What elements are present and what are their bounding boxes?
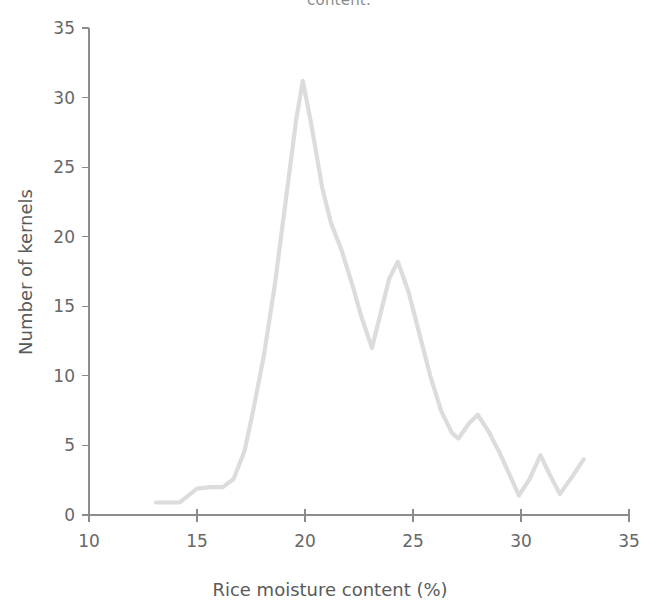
chart-axes xyxy=(89,28,629,515)
x-tick-label: 30 xyxy=(510,531,532,551)
y-tick-label: 30 xyxy=(53,88,75,108)
y-tick-label: 25 xyxy=(53,157,75,177)
y-tick-label: 20 xyxy=(53,227,75,247)
x-axis-title: Rice moisture content (%) xyxy=(212,579,447,600)
x-tick-label: 10 xyxy=(78,531,100,551)
chart-figure: content. 05101520253035 101520253035 Ric… xyxy=(0,0,660,609)
x-tick-label: 20 xyxy=(294,531,316,551)
y-tick-label: 10 xyxy=(53,366,75,386)
y-tick-label: 5 xyxy=(64,435,75,455)
x-tick-label: 25 xyxy=(402,531,424,551)
data-series-group xyxy=(156,81,584,503)
line-chart-plot: 05101520253035 101520253035 Rice moistur… xyxy=(0,0,660,609)
y-tick-label: 15 xyxy=(53,296,75,316)
x-tick-label: 35 xyxy=(618,531,640,551)
series-line-kernels xyxy=(156,81,584,503)
y-axis-ticks: 05101520253035 xyxy=(53,18,89,525)
y-axis-title: Number of kernels xyxy=(15,189,36,355)
y-tick-label: 0 xyxy=(64,505,75,525)
x-tick-label: 15 xyxy=(186,531,208,551)
y-tick-label: 35 xyxy=(53,18,75,38)
